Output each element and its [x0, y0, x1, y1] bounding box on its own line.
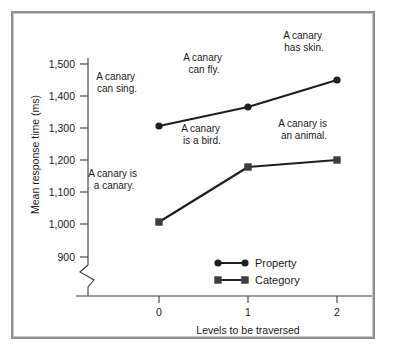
- annotation-category-1-line2: is a bird.: [183, 135, 221, 146]
- annotation-category-2-line2: an animal.: [281, 130, 327, 141]
- series-property-point-0: [155, 122, 162, 129]
- legend-label-property: Property: [255, 257, 297, 269]
- figure-frame: 1,500 1,400 1,300 1,200 1,100 1,000 900 …: [11, 11, 375, 339]
- annotation-category-2-line1: A canary is: [278, 118, 327, 129]
- annotation-category-0-line1: A canary is: [88, 168, 137, 179]
- series-category-point-2: [333, 156, 340, 163]
- series-category: [155, 156, 340, 225]
- annotation-property-1-line1: A canary: [183, 52, 222, 63]
- y-axis-title: Mean response time (ms): [29, 95, 41, 214]
- y-tick-label-1300: 1,300: [49, 122, 75, 134]
- legend-property-marker-start: [214, 259, 221, 266]
- line-chart-svg: 1,500 1,400 1,300 1,200 1,100 1,000 900 …: [14, 14, 378, 342]
- legend-label-category: Category: [255, 274, 300, 286]
- x-tick-label-2: 2: [334, 306, 340, 318]
- y-tick-label-1500: 1,500: [49, 58, 75, 70]
- series-property-point-2: [333, 76, 340, 83]
- annotation-property-1-line2: can fly.: [189, 64, 220, 75]
- chart-plot-area: 1,500 1,400 1,300 1,200 1,100 1,000 900 …: [14, 14, 378, 342]
- annotation-property-0: A canary can sing.: [96, 71, 138, 94]
- legend-category-marker-start: [214, 276, 221, 283]
- annotation-category-1-line1: A canary: [181, 123, 220, 134]
- y-tick-label-900: 900: [57, 251, 75, 263]
- y-axis: 1,500 1,400 1,300 1,200 1,100 1,000 900 …: [29, 58, 94, 296]
- annotation-category-0-line2: a canary.: [94, 180, 134, 191]
- y-tick-label-1100: 1,100: [49, 186, 75, 198]
- series-category-point-1: [244, 163, 251, 170]
- annotation-property-2: A canary has skin.: [283, 30, 325, 53]
- annotation-property-0-line2: can sing.: [97, 83, 137, 94]
- x-axis: 0 1 2 Levels to be traversed: [76, 296, 372, 336]
- y-tick-label-1200: 1,200: [49, 154, 75, 166]
- y-axis-break-icon: [80, 257, 94, 296]
- annotation-property-2-line2: has skin.: [284, 42, 323, 53]
- annotation-property-2-line1: A canary: [283, 30, 322, 41]
- x-axis-title: Levels to be traversed: [196, 324, 299, 336]
- x-tick-label-1: 1: [245, 306, 251, 318]
- chart-legend: Property Category: [214, 257, 300, 286]
- legend-property-marker-end: [241, 259, 248, 266]
- annotation-property-0-line1: A canary: [96, 71, 135, 82]
- annotation-property-1: A canary can fly.: [183, 52, 225, 75]
- y-tick-label-1000: 1,000: [49, 218, 75, 230]
- legend-item-property: Property: [214, 257, 297, 269]
- legend-category-marker-end: [241, 276, 248, 283]
- legend-item-category: Category: [214, 274, 300, 286]
- y-tick-label-1400: 1,400: [49, 90, 75, 102]
- annotation-category-1: A canary is a bird.: [181, 123, 223, 146]
- annotation-category-0: A canary is a canary.: [88, 168, 140, 191]
- series-property-point-1: [244, 103, 251, 110]
- point-annotations: A canary can sing. A canary can fly. A c…: [88, 30, 330, 191]
- x-tick-label-0: 0: [156, 306, 162, 318]
- annotation-category-2: A canary is an animal.: [278, 118, 330, 141]
- series-category-point-0: [155, 218, 162, 225]
